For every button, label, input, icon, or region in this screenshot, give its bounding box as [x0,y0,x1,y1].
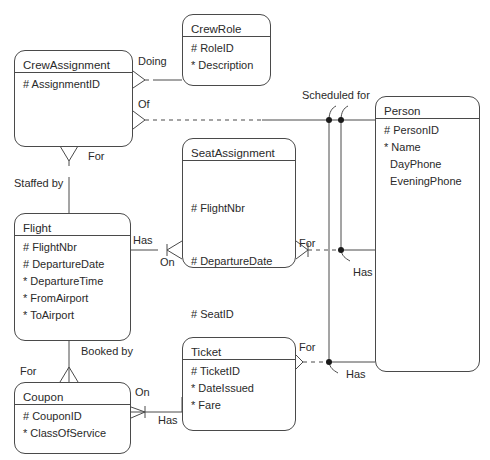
crows-foot-icon [133,111,145,129]
label-has-ticket: Has [158,414,178,426]
entity-crewrole[interactable]: CrewRole # RoleID * Description [182,14,271,86]
entity-seatassignment[interactable]: SeatAssignment # FlightNbr # DepartureDa… [182,138,296,268]
attribute: # FlightNbr [23,239,130,256]
entity-title: SeatAssignment [183,139,295,161]
label-for-ticket: For [299,341,316,353]
label-for-crew: For [88,150,105,162]
attribute: DayPhone [384,156,479,173]
attribute: # DepartureDate [191,253,295,270]
entity-title: Flight [15,214,130,236]
crows-foot-icon [133,71,145,88]
label-has-person-ticket: Has [346,368,366,380]
attribute: # TicketID [191,363,295,380]
attribute: # SeatID [191,306,295,323]
entity-crewassignment[interactable]: CrewAssignment # AssignmentID [14,50,133,147]
attribute: * Description [191,57,270,74]
attribute: * DepartureTime [23,273,130,290]
attribute: * Fare [191,397,295,414]
attribute: * DateIssued [191,380,295,397]
label-on-coupon: On [135,386,150,398]
label-of: Of [138,98,150,110]
entity-title: CrewRole [183,15,270,37]
attribute: # DepartureDate [23,256,130,273]
entity-ticket[interactable]: Ticket # TicketID * DateIssued * Fare [182,337,296,431]
crows-foot-icon [60,146,78,161]
attribute: # CouponID [23,408,130,425]
attribute: # FlightNbr [191,200,295,217]
label-scheduled-for: Scheduled for [302,89,370,101]
attribute: # AssignmentID [23,76,132,93]
label-for-seat: For [299,237,316,249]
attribute: # RoleID [191,40,270,57]
attribute: EveningPhone [384,173,479,190]
label-for-coupon: For [20,365,37,377]
entity-coupon[interactable]: Coupon # CouponID * ClassOfService [14,382,131,454]
attribute: * Name [384,139,479,156]
entity-title: Coupon [15,383,130,405]
label-booked-by: Booked by [81,345,133,357]
attribute: # PersonID [384,122,479,139]
entity-title: Ticket [183,338,295,360]
entity-person[interactable]: Person # PersonID * Name DayPhone Evenin… [375,96,480,372]
attribute: * FromAirport [23,290,130,307]
label-doing: Doing [138,55,167,67]
crows-foot-icon [296,355,303,369]
entity-title: CrewAssignment [15,51,132,73]
label-staffed-by: Staffed by [14,177,63,189]
attribute: * ToAirport [23,307,130,324]
label-has-person-seat: Has [353,266,373,278]
entity-flight[interactable]: Flight # FlightNbr # DepartureDate * Dep… [14,213,131,341]
label-on-seat: On [160,256,175,268]
attribute: * ClassOfService [23,425,130,442]
entity-title: Person [376,97,479,119]
label-has-flight: Has [133,234,153,246]
